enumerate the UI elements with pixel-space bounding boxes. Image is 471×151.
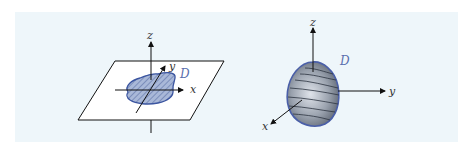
z-label: z — [309, 16, 316, 29]
right-figure: z y x D — [262, 16, 396, 133]
y-label: y — [388, 85, 396, 98]
region-label: D — [179, 67, 190, 81]
x-label: x — [262, 120, 269, 133]
x-label: x — [190, 83, 197, 96]
z-label: z — [146, 29, 153, 42]
diagram: z y x D z y x D — [0, 0, 471, 151]
y-label: y — [168, 60, 176, 73]
region-label: D — [339, 54, 350, 68]
left-figure: z y x D — [78, 29, 224, 133]
